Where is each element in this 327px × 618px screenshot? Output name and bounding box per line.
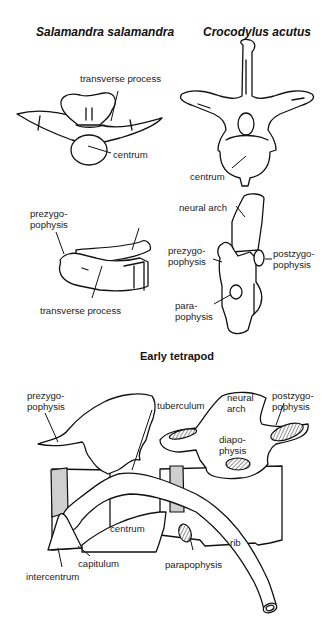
label-tetrapod-prezygapophysis: prezygo- pophysis (27, 391, 65, 412)
label-tetrapod-neural-arch: neural arch (227, 393, 254, 414)
label-neural-arch: neural arch (179, 203, 227, 214)
label-transverse-process-lateral: transverse process (40, 306, 121, 317)
salamandra-lateral-vertebra (56, 228, 150, 298)
label-prezygapophysis: prezygo- pophysis (30, 209, 68, 230)
label-intercentrum: intercentrum (26, 572, 79, 583)
label-tetrapod-centrum: centrum (110, 524, 145, 535)
label-rib: rib (230, 538, 241, 549)
label-diapophysis: diapo- physis (219, 435, 246, 456)
label-capitulum: capitulum (78, 559, 119, 570)
label-croc-postzygapophysis: postzygo- pophysis (273, 249, 315, 270)
label-croc-prezygapophysis: prezygo- pophysis (168, 246, 206, 267)
label-tetrapod-postzygapophysis: postzygo- pophysis (272, 391, 314, 412)
label-croc-centrum: centrum (190, 172, 225, 183)
crocodylus-title: Crocodylus acutus (203, 25, 311, 39)
label-parapophysis: parapophysis (165, 560, 222, 571)
label-transverse-process: transverse process (80, 74, 161, 85)
salamandra-title: Salamandra salamandra (36, 25, 174, 39)
label-centrum: centrum (113, 150, 148, 161)
early-tetrapod-title: Early tetrapod (140, 350, 214, 362)
crocodylus-anterior-vertebra (181, 39, 314, 186)
crocodylus-lateral-vertebra (213, 194, 272, 334)
label-croc-parapophysis: para- pophysis (175, 301, 213, 322)
label-tuberculum: tuberculum (157, 401, 204, 412)
